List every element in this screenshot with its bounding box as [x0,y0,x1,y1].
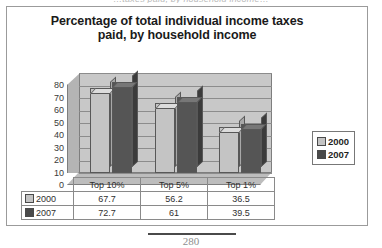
bar-2000-top-1- [219,127,239,173]
dark-gray-swatch-icon [25,208,34,217]
table-col-header-top1: Top 1% [208,178,275,192]
bar-2007-top-10- [112,82,132,173]
table-corner-cell [22,178,74,192]
table-row-header-2000: 2000 [22,192,74,206]
table-cell-2000-top1: 36.5 [208,192,275,206]
legend-label-2000: 2000 [328,135,349,148]
data-table-body: Top 10% Top 5% Top 1% 2000 67.7 56.2 36.… [22,178,275,220]
y-axis-tick-10: 10 [54,168,64,177]
table-col-header-top5: Top 5% [141,178,208,192]
bar-front-face [219,127,239,173]
bar-front-face [155,103,175,173]
y-axis-tick-80: 80 [54,81,64,90]
gridline-0 [79,173,272,174]
bar-2007-top-1- [241,124,261,173]
table-cell-2000-top10: 67.7 [74,192,141,206]
y-axis-tick-50: 50 [54,118,64,127]
clipped-page-header: …taxes paid, by household income… [0,0,382,3]
y-axis-tick-20: 20 [54,156,64,165]
legend-label-2007: 2007 [328,148,349,161]
table-cell-2007-top10: 72.7 [74,206,141,220]
bar-2000-top-10- [90,88,110,173]
page-number: 280 [0,235,382,247]
data-table: Top 10% Top 5% Top 1% 2000 67.7 56.2 36.… [21,177,275,220]
bar-front-face [177,97,197,173]
dark-gray-swatch-icon [317,150,326,159]
y-axis-tick-70: 70 [54,93,64,102]
bar-2000-top-5- [155,103,175,173]
chart-container: Percentage of total individual income ta… [6,6,368,226]
y-axis-tick-40: 40 [54,131,64,140]
table-header-row: Top 10% Top 5% Top 1% [22,178,275,192]
chart-legend: 2000 2007 [312,131,355,165]
gridline-70 [79,86,272,87]
table-cell-2000-top5: 56.2 [141,192,208,206]
bar-front-face [112,82,132,173]
bar-front-face [90,88,110,173]
table-row-label-2000: 2000 [36,194,56,204]
bar-front-face [241,124,261,173]
table-row: 2000 67.7 56.2 36.5 [22,192,275,206]
chart-title-line-2: paid, by household income [27,28,327,42]
bar-2007-top-5- [177,97,197,173]
y-axis-tick-60: 60 [54,106,64,115]
legend-item-2007: 2007 [317,148,349,161]
table-row: 2007 72.7 61 39.5 [22,206,275,220]
plot-area: 80706050403020100 [67,73,272,185]
light-gray-swatch-icon [317,137,326,146]
table-cell-2007-top1: 39.5 [208,206,275,220]
table-col-header-top10: Top 10% [74,178,141,192]
table-row-header-2007: 2007 [22,206,74,220]
table-cell-2007-top5: 61 [141,206,208,220]
gridline-80 [79,73,272,74]
chart-title: Percentage of total individual income ta… [27,14,327,42]
legend-item-2000: 2000 [317,135,349,148]
light-gray-swatch-icon [25,194,34,203]
y-axis-tick-30: 30 [54,143,64,152]
table-row-label-2007: 2007 [36,208,56,218]
chart-title-line-1: Percentage of total individual income ta… [27,14,327,28]
bar-side-face [261,112,267,167]
